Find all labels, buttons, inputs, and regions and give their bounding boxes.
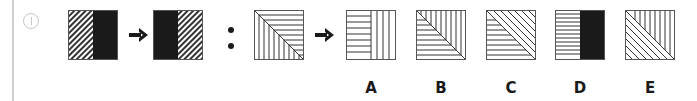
colon-dot-top — [228, 27, 234, 33]
query-figure — [254, 10, 304, 60]
option-e-label[interactable]: E — [625, 79, 675, 97]
option-b-label[interactable]: B — [416, 79, 466, 97]
option-a-figure[interactable] — [346, 10, 396, 60]
info-circle-icon — [23, 13, 39, 29]
option-c-figure[interactable] — [486, 10, 536, 60]
option-d-label[interactable]: D — [555, 79, 605, 97]
colon-dot-bottom — [228, 43, 234, 49]
arrow-right-icon — [315, 27, 335, 43]
option-b-figure[interactable] — [416, 10, 466, 60]
arrow-right-icon — [129, 27, 149, 43]
option-d-figure[interactable] — [555, 10, 605, 60]
premise-figure-right — [153, 10, 203, 60]
left-margin-bar — [12, 0, 14, 101]
premise-figure-left — [68, 10, 118, 60]
option-c-label[interactable]: C — [486, 79, 536, 97]
option-e-figure[interactable] — [625, 10, 675, 60]
analogy-separator — [228, 27, 234, 51]
option-a-label[interactable]: A — [346, 79, 396, 97]
